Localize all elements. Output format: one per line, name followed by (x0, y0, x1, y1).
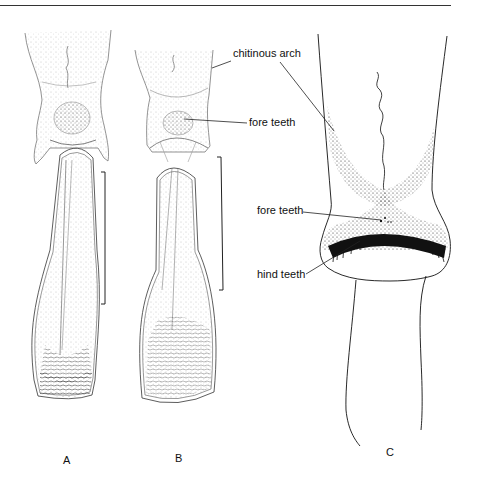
figure-illustration (0, 0, 477, 488)
chitinous-arch-leader-b (212, 61, 231, 68)
panel-a-drawing (25, 30, 111, 399)
label-fore-teeth-c: fore teeth (257, 205, 303, 216)
panel-label-b: B (175, 453, 182, 464)
label-hind-teeth: hind teeth (257, 269, 305, 280)
label-chitinous-arch: chitinous arch (233, 48, 301, 59)
panel-label-c: C (386, 447, 394, 458)
panel-label-a: A (63, 455, 70, 466)
panel-b-drawing (135, 50, 216, 403)
scale-bar-a (101, 172, 105, 304)
scale-bar-b (217, 157, 223, 290)
label-fore-teeth-b: fore teeth (249, 117, 295, 128)
panel-c-drawing (318, 34, 450, 446)
